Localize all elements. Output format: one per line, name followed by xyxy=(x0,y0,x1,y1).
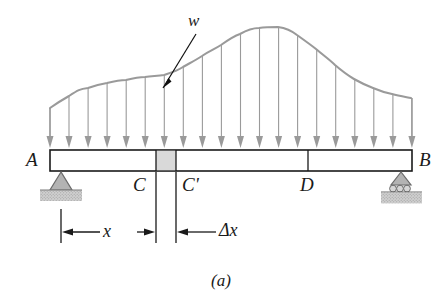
load-arrowheads xyxy=(47,136,416,148)
beam-element-shaded xyxy=(156,151,176,170)
label-dimension-x: x xyxy=(103,222,111,240)
load-intensity-curve xyxy=(50,27,411,108)
beam-load-figure: A B C C' D w x Δx (a) xyxy=(0,0,444,306)
dimension-x-arrow-left xyxy=(62,229,73,236)
label-load-intensity-w: w xyxy=(188,12,199,29)
label-section-c-prime: C' xyxy=(182,175,199,194)
dimension-x-arrow-right xyxy=(144,229,155,236)
support-pin-left xyxy=(40,172,82,201)
figure-caption: (a) xyxy=(211,272,231,289)
support-roller-right xyxy=(381,172,422,203)
dimension-delta-x-arrow-left xyxy=(177,229,188,236)
w-leader-line xyxy=(163,34,196,88)
beam-body xyxy=(50,150,412,171)
label-section-c: C xyxy=(133,175,146,194)
label-support-b: B xyxy=(419,150,431,169)
label-dimension-delta-x: Δx xyxy=(219,221,238,239)
beam-diagram-svg xyxy=(0,0,444,306)
label-support-a: A xyxy=(26,150,38,169)
label-section-d: D xyxy=(300,175,314,194)
